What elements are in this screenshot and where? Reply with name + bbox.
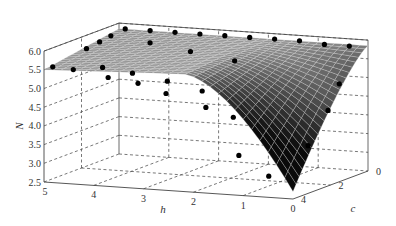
data-point [135,81,140,86]
data-point [232,58,237,63]
data-point [172,30,177,35]
z-tick-label: 5.0 [29,83,42,94]
grid-line [119,154,368,171]
data-point [106,75,111,80]
data-point [200,88,205,93]
data-point [71,67,76,72]
data-point [337,81,342,86]
surface-plot: 2.53.03.54.04.55.05.56.0543210420 h c N [0,0,396,226]
data-point [247,35,252,40]
data-point [130,71,135,76]
z-tick-label: 3.5 [29,139,42,150]
surface-mesh [44,29,368,192]
data-point [272,37,277,42]
data-point [165,79,170,84]
y-tick-label: 2 [339,180,344,191]
x-axis-label: h [160,203,166,215]
data-point [203,105,208,110]
z-tick-label: 6.0 [29,46,42,57]
z-tick-label: 4.0 [29,120,42,131]
z-tick-label: 5.5 [29,64,42,75]
data-point [188,49,193,54]
plot-canvas: 2.53.03.54.04.55.05.56.0543210420 h c N [0,0,396,226]
data-point [123,26,128,31]
y-tick-label: 4 [301,194,306,205]
x-tick-label: 3 [141,193,146,204]
data-point [97,39,102,44]
data-point [231,115,236,120]
data-point [108,33,113,38]
data-point [297,38,302,43]
z-tick-label: 2.5 [29,177,42,188]
data-point [148,28,153,33]
data-point [347,43,352,48]
x-tick-label: 1 [241,200,246,211]
z-axis-label: N [13,122,25,131]
x-tick-label: 2 [191,196,196,207]
x-tick-label: 5 [43,186,48,197]
x-tick-label: 0 [291,203,296,214]
data-point [322,42,327,47]
data-point [100,65,105,70]
data-point [222,33,227,38]
data-point [325,108,330,113]
x-axis-line [44,182,293,199]
data-point [163,91,168,96]
data-point [305,143,310,148]
z-tick-label: 4.5 [29,102,42,113]
grid-line [119,135,368,152]
data-point [266,174,271,179]
data-point [236,153,241,158]
z-tick-label: 3.0 [29,158,42,169]
y-tick-label: 0 [376,166,381,177]
data-point [84,46,89,51]
data-point [50,64,55,69]
data-point [147,40,152,45]
y-axis-label: c [351,202,356,214]
x-tick-label: 4 [91,189,96,200]
data-point [197,31,202,36]
